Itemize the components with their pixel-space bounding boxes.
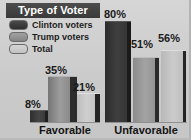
bar-top-edge (48, 76, 77, 77)
bar-top-edge (105, 21, 131, 22)
bar-top-edge (133, 57, 159, 58)
legend-label-trump-voters: Trump voters (32, 32, 89, 42)
legend-item-trump-voters: Trump voters (6, 31, 100, 42)
legend-swatch-total (9, 44, 28, 54)
frame-bottom-edge (0, 138, 191, 140)
legend-label-total: Total (32, 44, 53, 54)
value-label-unfavorable-trump: 51% (131, 38, 153, 50)
bar-top-edge (77, 93, 100, 94)
bar-face (161, 51, 183, 122)
bar-face (77, 94, 95, 122)
legend-swatch-trump-voters (9, 32, 28, 42)
legend-title: Type of Voter (6, 3, 100, 18)
bar-face (105, 22, 127, 122)
bar-face (48, 77, 70, 122)
bar-unfavorable-total (161, 51, 183, 122)
category-label-unfavorable: Unfavorable (102, 124, 190, 137)
bar-side-shade (95, 94, 100, 122)
baseline-favorable (30, 122, 100, 123)
chart-container: 8% 35% 21% Favorable 80% (0, 0, 191, 140)
category-label-favorable: Favorable (27, 124, 103, 137)
legend-item-clinton-voters: Clinton voters (6, 19, 100, 30)
bar-side-shade (183, 51, 186, 122)
value-label-favorable-trump: 35% (45, 64, 67, 76)
legend-item-total: Total (6, 43, 100, 54)
frame-right-edge (189, 0, 191, 140)
value-label-favorable-clinton: 8% (25, 98, 41, 110)
legend-swatch-clinton-voters (9, 20, 28, 30)
baseline-unfavorable (105, 122, 187, 123)
bar-unfavorable-trump (133, 58, 155, 122)
bar-side-shade (155, 58, 159, 122)
bar-top-edge (30, 110, 48, 111)
bar-face (133, 58, 155, 122)
legend: Type of Voter Clinton voters Trump voter… (6, 3, 100, 54)
value-label-favorable-total: 21% (73, 81, 95, 93)
value-label-unfavorable-clinton: 80% (104, 8, 126, 20)
bar-favorable-clinton (30, 111, 45, 122)
bar-top-edge (161, 50, 186, 51)
bar-side-shade (127, 22, 131, 122)
bar-favorable-total (77, 94, 95, 122)
legend-label-clinton-voters: Clinton voters (32, 20, 93, 30)
bar-unfavorable-clinton (105, 22, 127, 122)
value-label-unfavorable-total: 56% (158, 32, 180, 44)
bar-favorable-trump (48, 77, 70, 122)
bar-face (30, 111, 45, 122)
